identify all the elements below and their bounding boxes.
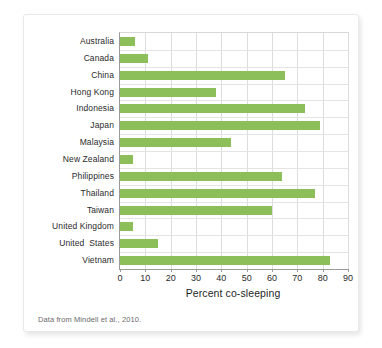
category-label: Japan	[90, 117, 120, 134]
x-tick-label: 40	[216, 273, 226, 283]
gridline-vertical	[348, 33, 349, 269]
category-label: Hong Kong	[71, 84, 120, 101]
bar-row: New Zealand	[120, 151, 348, 168]
bar-row: Philippines	[120, 168, 348, 185]
x-tick-mark	[171, 269, 172, 272]
category-label: Taiwan	[87, 202, 120, 219]
bar-row: Canada	[120, 50, 348, 67]
category-label: Vietnam	[82, 252, 120, 269]
bar-row: Indonesia	[120, 100, 348, 117]
bar-row: United States	[120, 235, 348, 252]
x-tick-label: 50	[242, 273, 252, 283]
x-tick-mark	[323, 269, 324, 272]
bar-row: Malaysia	[120, 134, 348, 151]
x-tick-mark	[272, 269, 273, 272]
bar	[120, 172, 282, 181]
bar-row: Thailand	[120, 185, 348, 202]
chart-plot-area: AustraliaCanadaChinaHong KongIndonesiaJa…	[119, 32, 349, 270]
bar-row: United Kingdom	[120, 218, 348, 235]
x-tick-label: 60	[267, 273, 277, 283]
x-tick-label: 20	[166, 273, 176, 283]
bar	[120, 256, 330, 265]
x-tick-label: 0	[117, 273, 122, 283]
category-label: Indonesia	[76, 100, 120, 117]
x-tick-label: 70	[292, 273, 302, 283]
bar	[120, 121, 320, 130]
category-label: New Zealand	[63, 151, 120, 168]
x-tick-label: 80	[318, 273, 328, 283]
bar	[120, 37, 135, 46]
source-note: Data from Mindell et al., 2010.	[38, 315, 141, 324]
x-tick-mark	[297, 269, 298, 272]
bar	[120, 54, 148, 63]
bar	[120, 104, 305, 113]
category-label: United Kingdom	[52, 218, 120, 235]
bar-row: Australia	[120, 33, 348, 50]
bar-row: Japan	[120, 117, 348, 134]
bar	[120, 222, 133, 231]
x-tick-label: 90	[343, 273, 353, 283]
bar	[120, 71, 285, 80]
x-tick-mark	[348, 269, 349, 272]
bar	[120, 189, 315, 198]
category-label: Malaysia	[80, 134, 120, 151]
x-tick-label: 10	[140, 273, 150, 283]
bar-row: Vietnam	[120, 252, 348, 269]
category-label: United States	[59, 235, 120, 252]
x-tick-label: 30	[191, 273, 201, 283]
category-label: Thailand	[81, 185, 120, 202]
x-tick-mark	[120, 269, 121, 272]
x-tick-mark	[221, 269, 222, 272]
bar	[120, 88, 216, 97]
bar	[120, 138, 231, 147]
x-tick-mark	[247, 269, 248, 272]
category-label: Canada	[84, 50, 120, 67]
figure-card: AustraliaCanadaChinaHong KongIndonesiaJa…	[23, 14, 359, 332]
category-label: Australia	[80, 33, 120, 50]
x-tick-mark	[145, 269, 146, 272]
bar	[120, 239, 158, 248]
bar-row: China	[120, 67, 348, 84]
x-tick-mark	[196, 269, 197, 272]
category-label: China	[91, 67, 120, 84]
bar	[120, 206, 272, 215]
bar	[120, 155, 133, 164]
x-axis-title: Percent co-sleeping	[119, 287, 347, 299]
bar-row: Taiwan	[120, 202, 348, 219]
category-label: Philippines	[72, 168, 120, 185]
bar-row: Hong Kong	[120, 84, 348, 101]
